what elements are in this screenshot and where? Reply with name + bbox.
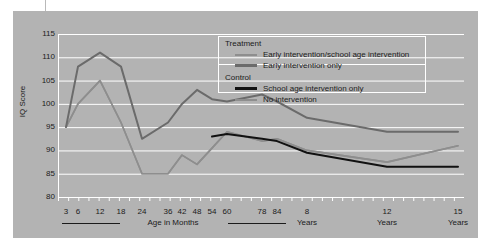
- figure-root: 80859095100105110115 IQ Score 3612182436…: [0, 0, 494, 251]
- x-axis-tick-label: 15: [454, 207, 463, 216]
- x-axis-tick-label: 3: [64, 207, 68, 216]
- legend-entry-label: Early intervention/school age interventi…: [263, 50, 409, 60]
- y-axis-tick-label: 105: [42, 77, 55, 85]
- x-axis-tick-label: 84: [273, 207, 282, 216]
- caption-text: Age in Months: [147, 218, 198, 227]
- legend-swatch-line: [235, 64, 257, 67]
- y-axis-tick-label: 110: [42, 53, 55, 61]
- legend-section-control: Control School age intervention only No …: [219, 71, 425, 105]
- legend-entry-label: Early intervention only: [263, 61, 342, 71]
- x-axis-tick-label: 12: [96, 207, 105, 216]
- y-axis-tick-label: 95: [46, 123, 55, 131]
- x-axis-year-label: Years: [297, 218, 317, 227]
- x-axis-tick-label: 42: [178, 207, 187, 216]
- y-axis-tick-label: 100: [42, 100, 55, 108]
- caption-rule-left: [62, 223, 120, 224]
- legend-swatch-line: [235, 99, 257, 101]
- y-axis-title: IQ Score: [18, 86, 27, 118]
- legend-entry-label: School age intervention only: [263, 84, 364, 94]
- legend-entry: Early intervention/school age interventi…: [225, 49, 425, 60]
- legend-swatch-line: [235, 87, 257, 90]
- chart-legend: Treatment Early intervention/school age …: [218, 36, 426, 93]
- legend-header-treatment: Treatment: [225, 39, 425, 49]
- x-axis-tick-label: 24: [138, 207, 147, 216]
- x-axis-tick-labels: 361218243642485460788481215: [58, 207, 478, 218]
- y-axis-tick-label: 115: [42, 30, 55, 38]
- x-axis-tick-label: 36: [164, 207, 173, 216]
- x-axis-tick-label: 78: [258, 207, 267, 216]
- x-axis-tick-label: 48: [193, 207, 202, 216]
- x-axis-year-label: Years: [377, 218, 397, 227]
- series-line: [212, 134, 458, 167]
- x-axis-tick-label: 8: [305, 207, 309, 216]
- legend-entry: No intervention: [225, 94, 425, 105]
- x-axis-tick-label: 18: [117, 207, 126, 216]
- y-axis-tick-labels: 80859095100105110115: [25, 34, 55, 197]
- chart-panel: 80859095100105110115 IQ Score 3612182436…: [13, 11, 478, 238]
- y-axis-tick-label: 90: [46, 146, 55, 154]
- legend-swatch-line: [235, 54, 257, 56]
- caption-rule-right: [228, 223, 286, 224]
- x-axis-year-label: Years: [448, 218, 468, 227]
- y-axis-tick-label: 85: [46, 170, 55, 178]
- legend-header-control: Control: [225, 73, 425, 83]
- x-axis-months-caption: Age in Months: [58, 218, 288, 229]
- legend-entry: School age intervention only: [225, 83, 425, 94]
- legend-section-treatment: Treatment Early intervention/school age …: [219, 37, 425, 71]
- x-axis-tick-label: 54: [208, 207, 217, 216]
- y-axis-tick-label: 80: [46, 193, 55, 201]
- x-axis-tick-label: 12: [383, 207, 392, 216]
- legend-entry: Early intervention only: [225, 60, 425, 71]
- x-axis-tick-label: 60: [223, 207, 232, 216]
- legend-entry-label: No intervention: [263, 95, 317, 105]
- x-axis-tick-label: 6: [76, 207, 80, 216]
